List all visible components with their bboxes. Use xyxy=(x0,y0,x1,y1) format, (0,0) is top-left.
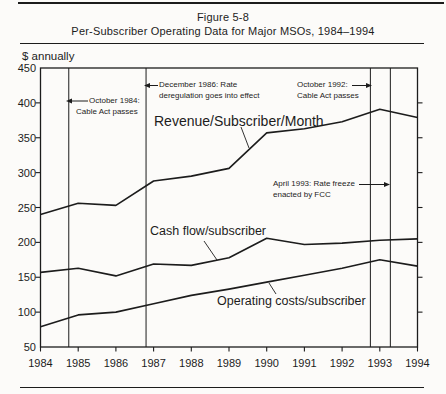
x-tick-label: 1992 xyxy=(327,357,357,369)
x-tick-label: 1987 xyxy=(139,357,169,369)
series-label-cash-flow: Cash flow/subscriber xyxy=(150,224,266,238)
annotation-apr-1993-line2: enacted by FCC xyxy=(273,190,331,200)
series-label-revenue: Revenue/Subscriber/Month xyxy=(154,113,324,129)
annotation-oct-1992-line2: Cable Act passes xyxy=(297,91,359,101)
x-tick-label: 1990 xyxy=(252,357,282,369)
x-tick-label: 1986 xyxy=(101,357,131,369)
x-tick-label: 1991 xyxy=(289,357,319,369)
x-tick-label: 1988 xyxy=(176,357,206,369)
x-tick-label: 1989 xyxy=(214,357,244,369)
arrow-oct-1992-head-icon xyxy=(366,83,372,88)
x-tick-label: 1985 xyxy=(63,357,93,369)
annotation-oct-1984-line2: Cable Act passes xyxy=(76,107,138,117)
arrow-apr-1993-head-icon xyxy=(384,182,390,187)
annotation-oct-1992-line1: October 1992: xyxy=(297,80,348,90)
y-tick-label: 400 xyxy=(8,97,36,109)
y-tick-label: 300 xyxy=(8,167,36,179)
bottom-rule xyxy=(20,387,424,388)
series-line-1 xyxy=(41,238,418,276)
x-tick-label: 1994 xyxy=(403,357,433,369)
annotation-dec-1986-line1: December 1986: Rate xyxy=(159,80,237,90)
label-leader-0 xyxy=(241,127,249,148)
label-leader-2 xyxy=(269,283,276,294)
y-tick-label: 50 xyxy=(8,341,36,353)
annotation-apr-1993-line1: April 1993: Rate freeze xyxy=(273,179,355,189)
y-tick-label: 200 xyxy=(8,236,36,248)
figure-5-8-page: Figure 5-8 Per-Subscriber Operating Data… xyxy=(0,0,446,394)
x-tick-label: 1993 xyxy=(365,357,395,369)
series-label-operating-costs: Operating costs/subscriber xyxy=(217,294,366,308)
annotation-oct-1984-line1: October 1984: xyxy=(89,96,140,106)
chart-canvas xyxy=(0,0,446,394)
y-tick-label: 250 xyxy=(8,202,36,214)
y-tick-label: 150 xyxy=(8,271,36,283)
label-leader-1 xyxy=(204,241,217,260)
x-tick-label: 1984 xyxy=(26,357,56,369)
y-tick-label: 350 xyxy=(8,132,36,144)
arrow-dec-1986-head-icon xyxy=(144,83,150,88)
annotation-dec-1986-line2: deregulation goes into effect xyxy=(159,91,259,101)
y-tick-label: 450 xyxy=(8,62,36,74)
y-tick-label: 100 xyxy=(8,306,36,318)
